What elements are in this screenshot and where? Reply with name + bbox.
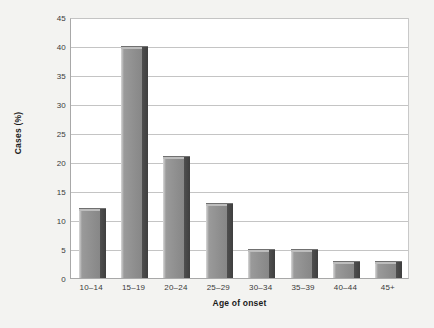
y-axis-tick-label: 25 — [40, 130, 66, 139]
bar[interactable] — [121, 46, 148, 278]
bar[interactable] — [375, 261, 402, 278]
bar-slot — [79, 19, 106, 278]
x-axis-tick-label: 25–29 — [207, 283, 230, 292]
bar-top-highlight — [206, 204, 227, 206]
x-axis-tick-label: 10–14 — [80, 283, 103, 292]
bar-top-highlight — [375, 262, 396, 264]
bar-top-highlight — [291, 250, 312, 252]
y-axis-tick-label: 35 — [40, 72, 66, 81]
y-axis-title: Cases (%) — [13, 93, 23, 173]
y-axis-tick-label: 20 — [40, 159, 66, 168]
bar[interactable] — [79, 208, 106, 278]
x-axis-tick-label: 30–34 — [249, 283, 272, 292]
bar[interactable] — [206, 203, 233, 278]
y-axis-tick-label: 30 — [40, 101, 66, 110]
bar[interactable] — [291, 249, 318, 278]
bar-slot — [206, 19, 233, 278]
bar-top-highlight — [248, 250, 269, 252]
bar[interactable] — [163, 156, 190, 278]
bar-slot — [248, 19, 275, 278]
x-axis-tick-label: 40–44 — [334, 283, 357, 292]
x-axis-tick-labels: 10–1415–1920–2425–2930–3435–3940–4445+ — [70, 283, 409, 297]
bar-top-highlight — [121, 47, 142, 49]
bar-top-highlight — [333, 262, 354, 264]
y-axis-tick-label: 15 — [40, 188, 66, 197]
bar-slot — [375, 19, 402, 278]
bar-top-highlight — [79, 209, 100, 211]
x-axis-tick-label: 35–39 — [291, 283, 314, 292]
y-axis-tick-label: 0 — [40, 275, 66, 284]
y-axis-tick-label: 10 — [40, 217, 66, 226]
bar-slot — [291, 19, 318, 278]
plot-area — [70, 18, 409, 279]
x-axis-title: Age of onset — [70, 298, 409, 308]
y-axis-tick-labels: 051015202530354045 — [40, 18, 66, 279]
y-axis-tick-label: 40 — [40, 43, 66, 52]
bar-chart-figure: Cases (%) 051015202530354045 10–1415–192… — [0, 0, 434, 328]
bar[interactable] — [333, 261, 360, 278]
y-axis-tick-label: 45 — [40, 14, 66, 23]
bar-slot — [333, 19, 360, 278]
x-axis-tick-label: 20–24 — [164, 283, 187, 292]
bar-slot — [121, 19, 148, 278]
y-axis-tick-label: 5 — [40, 246, 66, 255]
bar-slot — [163, 19, 190, 278]
x-axis-tick-label: 45+ — [381, 283, 395, 292]
bar[interactable] — [248, 249, 275, 278]
x-axis-tick-label: 15–19 — [122, 283, 145, 292]
bars-group — [71, 19, 408, 278]
bar-top-highlight — [163, 157, 184, 159]
